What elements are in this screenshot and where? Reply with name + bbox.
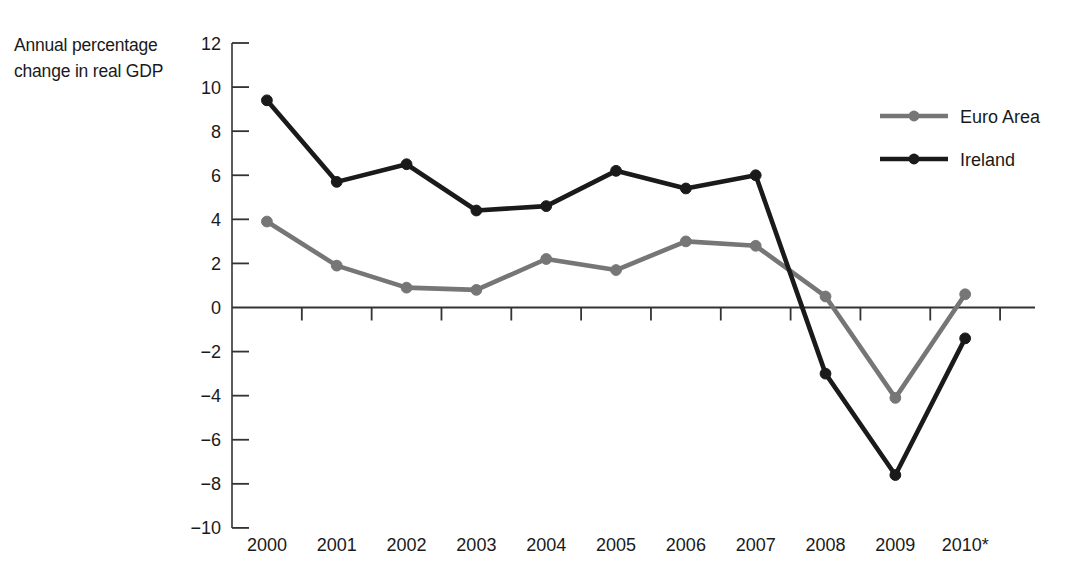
data-point — [960, 289, 971, 300]
y-tick-label: −4 — [200, 386, 221, 406]
y-tick-label: −8 — [200, 474, 221, 494]
y-tick-label: 6 — [211, 166, 221, 186]
legend-label: Ireland — [960, 150, 1015, 170]
x-tick-label: 2007 — [736, 535, 776, 555]
y-tick-label: −6 — [200, 430, 221, 450]
y-axis-label-line2: change in real GDP — [14, 61, 163, 81]
y-tick-label: 2 — [211, 254, 221, 274]
y-axis-label-line1: Annual percentage — [14, 35, 158, 55]
data-point — [331, 176, 342, 187]
y-tick-label: 8 — [211, 122, 221, 142]
data-point — [890, 392, 901, 403]
data-point — [820, 368, 831, 379]
legend-label: Euro Area — [960, 107, 1041, 127]
data-point — [611, 165, 622, 176]
data-point — [262, 216, 273, 227]
data-point — [401, 282, 412, 293]
chart-figure: Annual percentage change in real GDP 121… — [0, 0, 1078, 573]
y-tick-label: −10 — [190, 518, 221, 538]
x-tick-label: 2001 — [317, 535, 357, 555]
data-point — [471, 205, 482, 216]
x-tick-label: 2008 — [805, 535, 845, 555]
x-tick-label: 2003 — [456, 535, 496, 555]
data-point — [262, 95, 273, 106]
x-tick-label: 2006 — [666, 535, 706, 555]
data-point — [750, 170, 761, 181]
x-axis-ticks — [302, 308, 1000, 321]
x-tick-label: 2005 — [596, 535, 636, 555]
legend-swatch-marker — [909, 111, 920, 122]
data-point — [471, 284, 482, 295]
data-point — [401, 159, 412, 170]
x-tick-label: 2004 — [526, 535, 566, 555]
data-point — [750, 240, 761, 251]
data-point — [331, 260, 342, 271]
chart-legend: Euro AreaIreland — [880, 107, 1041, 170]
data-point — [541, 254, 552, 265]
x-tick-label: 2009 — [875, 535, 915, 555]
x-tick-label: 2010* — [942, 535, 989, 555]
y-tick-label: 4 — [211, 210, 221, 230]
y-tick-label: 10 — [201, 78, 221, 98]
y-tick-label: 12 — [201, 34, 221, 54]
data-point — [680, 236, 691, 247]
data-point — [541, 201, 552, 212]
x-tick-label: 2002 — [387, 535, 427, 555]
x-axis-tick-labels: 2000200120022003200420052006200720082009… — [247, 535, 989, 555]
data-point — [890, 470, 901, 481]
x-tick-label: 2000 — [247, 535, 287, 555]
data-point — [820, 291, 831, 302]
y-tick-label: −2 — [200, 342, 221, 362]
data-point — [680, 183, 691, 194]
data-point — [960, 333, 971, 344]
data-series-layer — [262, 95, 971, 481]
legend-swatch-marker — [909, 154, 920, 165]
line-chart: Annual percentage change in real GDP 121… — [0, 0, 1078, 573]
y-tick-label: 0 — [211, 298, 221, 318]
y-axis-ticks: 121086420−2−4−6−8−10 — [190, 34, 249, 539]
data-point — [611, 265, 622, 276]
series-line — [267, 100, 965, 475]
